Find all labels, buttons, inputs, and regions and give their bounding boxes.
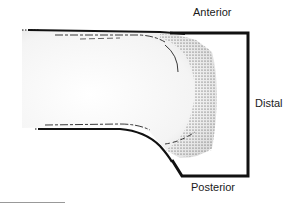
label-posterior: Posterior (191, 181, 235, 193)
label-anterior: Anterior (193, 6, 232, 18)
bone-diagram (0, 0, 297, 207)
divider-rule (0, 202, 65, 203)
label-distal: Distal (255, 97, 283, 109)
